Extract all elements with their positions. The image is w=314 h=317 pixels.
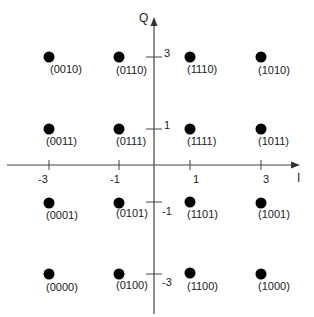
y-tick-label: 3 bbox=[164, 47, 170, 59]
y-tick-1: 1 bbox=[146, 119, 170, 131]
x-tick-3: 3 bbox=[261, 160, 269, 185]
q-axis-label: Q bbox=[139, 11, 148, 25]
x-tick-neg3: -3 bbox=[38, 160, 49, 185]
y-tick-3: 3 bbox=[146, 47, 170, 59]
constellation-point: (1011) bbox=[256, 124, 289, 148]
constellation-point: (1100) bbox=[185, 268, 218, 293]
point-label: (0000) bbox=[46, 281, 78, 293]
point-label: (1010) bbox=[258, 64, 290, 76]
constellation-point: (0011) bbox=[44, 124, 77, 148]
constellation-point: (0010) bbox=[44, 52, 82, 76]
constellation-diagram: Q I -3 -1 1 3 3 1 -1 -3 (0010) (0110) bbox=[0, 0, 314, 317]
point-label: (0010) bbox=[50, 63, 82, 75]
constellation-point: (1111) bbox=[185, 124, 217, 148]
constellation-point: (1010) bbox=[256, 52, 290, 77]
point-label: (0100) bbox=[116, 279, 148, 291]
x-tick-label: 3 bbox=[263, 173, 269, 185]
y-tick-neg1: -1 bbox=[146, 202, 172, 217]
constellation-point: (1001) bbox=[256, 198, 290, 221]
i-axis-label: I bbox=[297, 171, 300, 185]
point-label: (1000) bbox=[258, 280, 290, 292]
point-label: (1011) bbox=[258, 135, 289, 147]
point-label: (0110) bbox=[116, 64, 147, 76]
point-label: (0111) bbox=[116, 135, 146, 147]
y-tick-label: 1 bbox=[164, 119, 170, 131]
point-label: (0001) bbox=[46, 209, 78, 221]
constellation-point: (1000) bbox=[256, 269, 290, 293]
i-axis-arrow-icon bbox=[291, 162, 300, 169]
x-tick-label: -3 bbox=[38, 173, 48, 185]
point-label: (0101) bbox=[116, 207, 148, 219]
y-tick-label: -3 bbox=[162, 276, 172, 288]
x-tick-1: 1 bbox=[190, 160, 199, 185]
point-label: (0011) bbox=[46, 135, 77, 147]
constellation-point: (1110) bbox=[185, 52, 218, 76]
x-tick-neg1: -1 bbox=[110, 160, 120, 185]
constellation-point: (0111) bbox=[114, 124, 147, 148]
y-tick-neg3: -3 bbox=[146, 274, 172, 288]
constellation-point: (0001) bbox=[44, 198, 78, 222]
x-tick-label: 1 bbox=[193, 173, 199, 185]
point-label: (1100) bbox=[187, 280, 218, 292]
constellation-point: (0110) bbox=[114, 52, 147, 77]
y-tick-label: -1 bbox=[162, 205, 172, 217]
point-label: (1101) bbox=[187, 208, 218, 220]
constellation-point: (0000) bbox=[44, 269, 78, 294]
point-label: (1001) bbox=[258, 208, 290, 220]
constellation-point: (0101) bbox=[114, 198, 148, 220]
point-label: (1110) bbox=[187, 63, 217, 75]
x-tick-label: -1 bbox=[110, 173, 120, 185]
q-axis-arrow-icon bbox=[151, 17, 158, 26]
point-label: (1111) bbox=[187, 135, 216, 147]
constellation-point: (1101) bbox=[185, 197, 218, 221]
constellation-point: (0100) bbox=[114, 269, 148, 292]
